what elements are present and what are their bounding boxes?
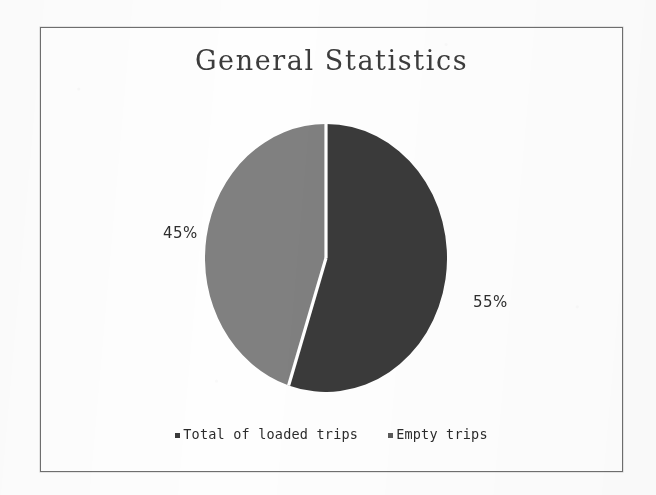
chart-frame: General Statistics 45% 55% Total of load… [40,27,623,472]
legend-label-empty-trips: Empty trips [396,426,488,442]
pie-label-empty-trips: 45% [163,224,198,242]
chart-legend: Total of loaded trips Empty trips [41,426,622,442]
legend-item-empty-trips[interactable]: Empty trips [388,426,488,442]
legend-swatch-empty-trips [388,433,393,438]
legend-item-loaded-trips[interactable]: Total of loaded trips [175,426,358,442]
pie-chart-svg [205,124,447,392]
legend-swatch-loaded-trips [175,433,180,438]
pie-chart [205,124,447,392]
scanned-chart-page: General Statistics 45% 55% Total of load… [0,0,656,495]
chart-title: General Statistics [41,45,622,76]
pie-label-loaded-trips: 55% [473,293,508,311]
legend-label-loaded-trips: Total of loaded trips [183,426,358,442]
